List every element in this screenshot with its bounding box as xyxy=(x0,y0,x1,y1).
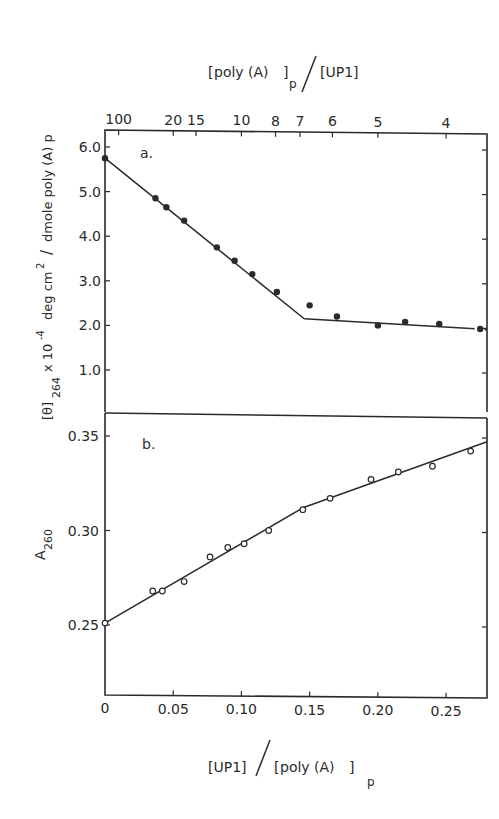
svg-text:[θ]: [θ] xyxy=(40,402,55,420)
top-tick-label: 6 xyxy=(328,113,337,129)
panel-b-y-tick-label: 0.30 xyxy=(68,523,99,539)
svg-text:/: / xyxy=(38,249,56,255)
data-point-open xyxy=(207,554,213,560)
panel-a-label: a. xyxy=(140,145,153,161)
data-point-open xyxy=(160,588,166,594)
data-point-filled xyxy=(477,326,483,332)
svg-text:poly (A): poly (A) xyxy=(280,759,335,775)
svg-text:-4: -4 xyxy=(35,330,46,340)
bottom-tick-label: 0.20 xyxy=(362,702,393,718)
data-point-filled xyxy=(436,321,442,327)
data-point-open xyxy=(241,541,247,547)
svg-text:264: 264 xyxy=(50,377,63,398)
bottom-tick-label: 0 xyxy=(101,700,110,716)
data-point-filled xyxy=(214,244,220,250)
top-tick-label: 20 xyxy=(164,112,182,128)
top-axis-title: [ poly (A) ] p [UP1] xyxy=(208,56,359,92)
data-point-open xyxy=(150,588,156,594)
data-point-open xyxy=(430,463,436,469)
svg-text:[UP1]: [UP1] xyxy=(320,64,359,80)
svg-text:poly (A): poly (A) xyxy=(214,64,269,80)
panel-b-fit-lines xyxy=(105,442,487,623)
data-point-filled xyxy=(152,195,158,201)
data-point-open xyxy=(266,528,272,534)
data-point-open xyxy=(468,448,474,454)
data-point-filled xyxy=(102,155,108,161)
top-tick-label: 100 xyxy=(105,111,132,127)
svg-text:deg cm: deg cm xyxy=(40,272,55,320)
svg-text:260: 260 xyxy=(42,529,55,550)
data-point-open xyxy=(368,477,374,483)
data-point-filled xyxy=(375,322,381,328)
top-tick-label: 8 xyxy=(271,113,280,129)
panel-a-y-axis-title: [θ] 264 x 10 -4 deg cm 2 / dmole poly (A… xyxy=(35,134,63,420)
data-point-open xyxy=(327,496,333,502)
panel-b-y-axis-title: A 260 xyxy=(32,529,55,560)
panel-a-y-tick-label: 4.0 xyxy=(79,228,101,244)
svg-text:]: ] xyxy=(349,759,354,775)
panel-a-y-tick-label: 2.0 xyxy=(79,317,101,333)
figure-canvas: [ poly (A) ] p [UP1] [UP1] [ poly (A) ] … xyxy=(0,0,499,819)
top-tick-label: 7 xyxy=(295,113,304,129)
svg-text:[UP1]: [UP1] xyxy=(208,759,247,775)
data-point-filled xyxy=(231,258,237,264)
panel-a-data-points xyxy=(102,155,484,332)
data-point-filled xyxy=(163,204,169,210)
bottom-tick-label: 0.05 xyxy=(158,701,189,717)
data-point-filled xyxy=(334,313,340,319)
svg-text:dmole poly (A) p: dmole poly (A) p xyxy=(40,134,55,242)
svg-text:A: A xyxy=(32,550,48,560)
plot-frame xyxy=(105,130,487,698)
bottom-tick-label: 0.15 xyxy=(294,702,325,718)
top-axis-ticks: 10020151087654 xyxy=(105,111,450,138)
data-point-open xyxy=(181,579,187,585)
data-point-filled xyxy=(181,217,187,223)
data-point-open xyxy=(225,545,231,551)
panel-divider xyxy=(105,413,487,418)
svg-text:]: ] xyxy=(283,64,288,80)
data-point-open xyxy=(300,507,306,513)
panel-b-label: b. xyxy=(142,436,155,452)
svg-text:p: p xyxy=(367,775,375,789)
top-tick-label: 5 xyxy=(373,114,382,130)
top-tick-label: 15 xyxy=(187,112,205,128)
panel-b-y-tick-label: 0.25 xyxy=(68,617,99,633)
data-point-filled xyxy=(402,319,408,325)
svg-text:2: 2 xyxy=(35,263,46,269)
bottom-axis-title: [UP1] [ poly (A) ] p xyxy=(208,740,375,789)
panel-a-y-tick-label: 1.0 xyxy=(79,362,101,378)
panel-a-y-tick-label: 3.0 xyxy=(79,273,101,289)
panel-a-y-tick-label: 5.0 xyxy=(79,184,101,200)
top-tick-label: 10 xyxy=(233,112,251,128)
data-point-filled xyxy=(306,302,312,308)
panel-a-y-ticks: 1.02.03.04.05.06.0 xyxy=(79,139,487,378)
panel-b-data-points xyxy=(102,448,473,626)
panel-b-y-tick-label: 0.35 xyxy=(68,428,99,444)
svg-text:p: p xyxy=(289,77,297,91)
data-point-open xyxy=(396,469,402,475)
bottom-tick-label: 0.25 xyxy=(430,703,461,719)
panel-a-fit-lines xyxy=(105,158,487,330)
svg-text:[: [ xyxy=(208,64,213,80)
svg-text:[: [ xyxy=(274,759,279,775)
panel-a-y-tick-label: 6.0 xyxy=(79,139,101,155)
panel-b-y-ticks: 0.250.300.35 xyxy=(68,428,487,633)
data-point-filled xyxy=(274,289,280,295)
svg-text:x 10: x 10 xyxy=(40,344,55,372)
top-tick-label: 4 xyxy=(442,115,451,131)
data-point-filled xyxy=(249,271,255,277)
bottom-tick-label: 0.10 xyxy=(226,701,257,717)
data-point-open xyxy=(102,620,108,626)
